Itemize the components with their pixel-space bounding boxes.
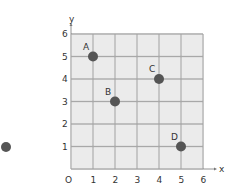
grid-cell bbox=[182, 35, 202, 56]
y-tick-label: 4 bbox=[62, 74, 68, 84]
x-tick-label: 5 bbox=[179, 175, 185, 185]
grid-cell bbox=[182, 80, 202, 101]
y-tick-label: 1 bbox=[62, 142, 68, 152]
point-label: C bbox=[149, 64, 155, 74]
grid-cell bbox=[138, 35, 158, 56]
grid-cell bbox=[116, 125, 136, 146]
grid-cell bbox=[182, 125, 202, 146]
x-axis-arrow-icon bbox=[214, 168, 217, 171]
x-tick-label: 4 bbox=[157, 175, 163, 185]
grid-cell bbox=[116, 103, 136, 124]
x-tick-label: 3 bbox=[135, 175, 141, 185]
x-tick-label: 6 bbox=[201, 175, 207, 185]
point-d bbox=[176, 142, 186, 152]
grid-cell bbox=[94, 148, 114, 169]
grid-cell bbox=[72, 125, 92, 146]
grid-cell bbox=[138, 148, 158, 169]
grid-cell bbox=[160, 103, 180, 124]
grid-cell bbox=[72, 148, 92, 169]
point-label: D bbox=[171, 132, 178, 142]
y-axis-label: y bbox=[69, 14, 75, 24]
grid-cell bbox=[138, 80, 158, 101]
grid-cell bbox=[94, 58, 114, 79]
grid-cell bbox=[116, 80, 136, 101]
grid-cell bbox=[138, 103, 158, 124]
grid-cell bbox=[72, 58, 92, 79]
grid-cell bbox=[160, 58, 180, 79]
grid-cell bbox=[160, 148, 180, 169]
grid-cell bbox=[116, 35, 136, 56]
x-tick-label: 2 bbox=[113, 175, 119, 185]
grid-cell bbox=[116, 58, 136, 79]
grid-cell bbox=[72, 80, 92, 101]
point-label: A bbox=[83, 42, 90, 52]
grid-cell bbox=[138, 125, 158, 146]
grid-cell bbox=[182, 58, 202, 79]
y-tick-label: 6 bbox=[62, 29, 68, 39]
y-tick-label: 5 bbox=[62, 52, 68, 62]
stray-dot bbox=[1, 142, 11, 152]
point-b bbox=[110, 97, 120, 107]
grid-cell bbox=[72, 103, 92, 124]
grid-cell bbox=[182, 148, 202, 169]
grid-cell bbox=[160, 80, 180, 101]
x-axis-label: x bbox=[219, 164, 225, 174]
grid-cell bbox=[94, 125, 114, 146]
point-a bbox=[88, 52, 98, 62]
point-c bbox=[154, 74, 164, 84]
grid-cell bbox=[94, 103, 114, 124]
x-tick-label: 1 bbox=[91, 175, 97, 185]
coordinate-grid: xy O123456123456 ABCD bbox=[0, 0, 234, 191]
grid-cell bbox=[94, 35, 114, 56]
y-tick-label: 2 bbox=[62, 119, 68, 129]
grid-cell bbox=[182, 103, 202, 124]
point-label: B bbox=[105, 87, 111, 97]
grid-cell bbox=[116, 148, 136, 169]
grid-cell bbox=[160, 35, 180, 56]
y-tick-label: 3 bbox=[62, 97, 68, 107]
origin-label: O bbox=[65, 175, 72, 185]
